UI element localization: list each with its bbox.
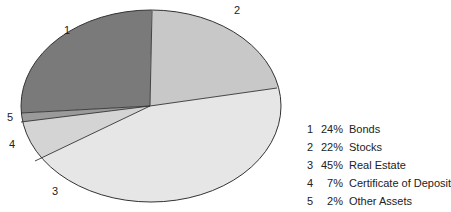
slice-bonds [0, 0, 152, 113]
slice-label-2: 2 [234, 4, 240, 16]
legend-label: Other Assets [349, 192, 412, 210]
legend-label: Real Estate [349, 156, 406, 174]
slice-label-5: 5 [7, 111, 13, 123]
legend-label: Bonds [349, 120, 380, 138]
legend-percent: 7% [315, 174, 343, 192]
legend-label: Stocks [349, 138, 382, 156]
legend-percent: 24% [315, 120, 343, 138]
legend-label: Certificate of Deposit [349, 174, 451, 192]
slice-label-1: 1 [64, 24, 70, 36]
legend-percent: 22% [315, 138, 343, 156]
slice-label-3: 3 [52, 185, 58, 197]
legend-percent: 2% [315, 192, 343, 210]
slice-label-4: 4 [9, 138, 15, 150]
legend-percent: 45% [315, 156, 343, 174]
